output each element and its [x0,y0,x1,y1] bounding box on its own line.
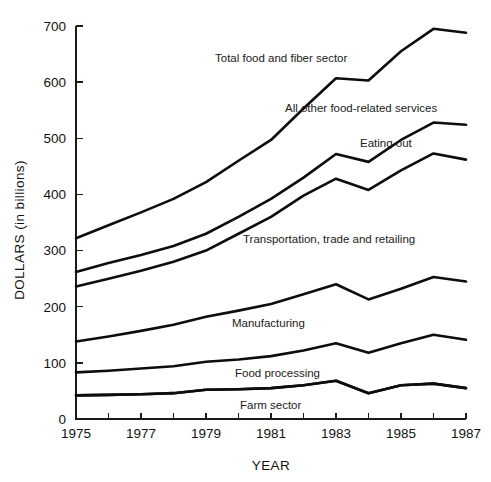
x-axis-tick-labels: 1975197719791981198319851987 [61,426,481,441]
axes [76,26,466,419]
y-axis-title: DOLLARS (in billions) [12,160,27,300]
series-label: Farm sector [240,399,302,411]
series-line [76,277,466,342]
line-chart: 0100200300400500600700 19751977197919811… [0,0,491,482]
y-tick-label: 100 [43,356,66,371]
y-tick-label: 200 [43,300,66,315]
data-series-lines [76,29,466,396]
y-tick-label: 600 [43,75,66,90]
tick-marks [76,26,466,419]
series-label: Food processing [235,367,320,379]
y-tick-label: 400 [43,187,66,202]
x-tick-label: 1977 [126,426,156,441]
x-tick-label: 1979 [191,426,221,441]
y-tick-label: 300 [43,243,66,258]
y-tick-label: 700 [43,19,66,34]
series-label: Eating out [360,137,413,149]
axis-frame [76,26,466,419]
x-axis-title: YEAR [252,458,290,473]
y-tick-label: 0 [58,412,66,427]
series-label: Transportation, trade and retailing [243,233,415,245]
series-annotations: Total food and fiber sectorAll other foo… [215,52,437,411]
x-tick-label: 1983 [321,426,351,441]
series-label: Manufacturing [232,317,305,329]
series-line [76,381,466,396]
series-label: All other food-related services [285,102,437,114]
y-tick-label: 500 [43,131,66,146]
chart-container: 0100200300400500600700 19751977197919811… [0,0,491,482]
series-line [76,153,466,286]
y-axis-tick-labels: 0100200300400500600700 [43,19,66,427]
x-tick-label: 1981 [256,426,286,441]
series-label: Total food and fiber sector [215,52,347,64]
x-tick-label: 1975 [61,426,91,441]
x-tick-label: 1985 [386,426,416,441]
x-tick-label: 1987 [451,426,481,441]
